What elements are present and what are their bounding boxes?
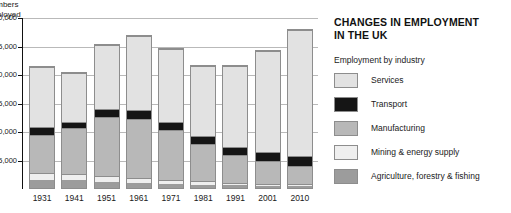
bar-2010 bbox=[287, 29, 313, 189]
y-tick-mark bbox=[18, 47, 23, 48]
legend-item: Agriculture, forestry & fishing bbox=[334, 164, 511, 188]
chart-figure: Numbers employed 30,00025,00020,00015,00… bbox=[0, 0, 511, 213]
bar-segment bbox=[95, 117, 119, 175]
bar-segment bbox=[127, 119, 151, 178]
y-tick-label: 20,000 bbox=[0, 71, 17, 79]
legend-swatch bbox=[334, 121, 358, 136]
bar-segment bbox=[256, 161, 280, 184]
bar-segment bbox=[127, 183, 151, 188]
legend-item: Mining & energy supply bbox=[334, 140, 511, 164]
bar-segment bbox=[223, 155, 247, 183]
bar-1961 bbox=[126, 35, 152, 189]
bar-segment bbox=[30, 180, 54, 188]
bar-segment bbox=[288, 156, 312, 166]
legend-items: ServicesTransportManufacturingMining & e… bbox=[334, 68, 511, 188]
bar-segment bbox=[288, 166, 312, 185]
y-tick-mark bbox=[18, 75, 23, 76]
bar-segment bbox=[256, 186, 280, 188]
bar-segment bbox=[62, 122, 86, 129]
y-tick-label: 10,000 bbox=[0, 128, 17, 136]
bar-segment bbox=[256, 51, 280, 152]
legend-label: Manufacturing bbox=[371, 123, 425, 133]
bar-2001 bbox=[255, 50, 281, 189]
legend-item: Services bbox=[334, 68, 511, 92]
bar-segment bbox=[62, 128, 86, 173]
bar-segment bbox=[159, 122, 183, 130]
bar-segment bbox=[30, 67, 54, 126]
legend-panel: CHANGES IN EMPLOYMENT IN THE UK Employme… bbox=[334, 0, 511, 213]
plot-canvas: 30,00025,00020,00015,00010,0005,000 bbox=[22, 18, 318, 189]
bar-1991 bbox=[222, 65, 248, 189]
x-axis-label: 2010 bbox=[280, 193, 320, 203]
bar-segment bbox=[30, 135, 54, 173]
y-tick-label: 15,000 bbox=[0, 100, 17, 108]
bar-segment bbox=[30, 127, 54, 135]
legend-label: Transport bbox=[371, 99, 407, 109]
bar-segment bbox=[127, 110, 151, 118]
chart-plot-area: Numbers employed 30,00025,00020,00015,00… bbox=[0, 0, 322, 213]
bar-segment bbox=[62, 174, 86, 181]
bar-1951 bbox=[94, 44, 120, 189]
legend-label: Services bbox=[371, 75, 404, 85]
legend-item: Transport bbox=[334, 92, 511, 116]
gridline bbox=[22, 18, 318, 19]
bar-segment bbox=[127, 36, 151, 110]
bar-segment bbox=[159, 130, 183, 181]
bar-segment bbox=[288, 186, 312, 188]
bar-segment bbox=[159, 184, 183, 188]
chart-headline: CHANGES IN EMPLOYMENT IN THE UK bbox=[334, 16, 479, 41]
bar-segment bbox=[30, 173, 54, 180]
y-tick-mark bbox=[18, 18, 23, 19]
bar-1971 bbox=[158, 48, 184, 189]
bar-segment bbox=[191, 144, 215, 181]
legend-item: Manufacturing bbox=[334, 116, 511, 140]
y-tick-mark bbox=[18, 132, 23, 133]
bar-segment bbox=[95, 182, 119, 188]
legend-caption: Employment by industry bbox=[334, 55, 425, 65]
bar-segment bbox=[223, 147, 247, 155]
bar-segment bbox=[95, 45, 119, 110]
bar-1931 bbox=[29, 66, 55, 189]
bar-segment bbox=[223, 66, 247, 147]
y-tick-label: 5,000 bbox=[0, 157, 17, 165]
bar-segment bbox=[95, 109, 119, 117]
bar-segment bbox=[62, 180, 86, 188]
bar-segment bbox=[62, 73, 86, 122]
y-tick-label: 30,000 bbox=[0, 14, 17, 22]
bar-segment bbox=[191, 66, 215, 137]
legend-swatch bbox=[334, 169, 358, 184]
bar-segment bbox=[288, 30, 312, 156]
bar-segment bbox=[191, 136, 215, 144]
legend-label: Agriculture, forestry & fishing bbox=[371, 171, 480, 181]
bar-1981 bbox=[190, 65, 216, 189]
legend-swatch bbox=[334, 73, 358, 88]
y-tick-mark bbox=[18, 161, 23, 162]
bar-segment bbox=[159, 49, 183, 121]
legend-swatch bbox=[334, 145, 358, 160]
y-tick-label: 25,000 bbox=[0, 43, 17, 51]
bar-segment bbox=[191, 185, 215, 188]
y-tick-mark bbox=[18, 104, 23, 105]
legend-swatch bbox=[334, 97, 358, 112]
bar-segment bbox=[223, 185, 247, 188]
legend-label: Mining & energy supply bbox=[371, 147, 459, 157]
bar-segment bbox=[256, 152, 280, 162]
bar-1941 bbox=[61, 72, 87, 189]
